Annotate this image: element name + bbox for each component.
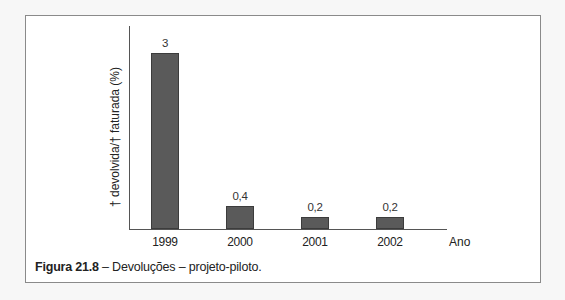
bar-2002 [376,217,404,229]
y-axis [129,26,130,230]
page: † devolvida/† faturada (%) 30,40,20,2 19… [0,0,565,300]
caption-number: Figura 21.8 [35,260,99,274]
bar-value-label-2000: 0,4 [220,190,260,202]
x-tick-2002: 2002 [365,235,415,249]
bar-value-label-1999: 3 [145,37,185,49]
x-axis [129,229,447,230]
x-axis-label: Ano [449,235,470,249]
bar-1999 [151,53,179,229]
bar-2001 [301,217,329,229]
x-tick-2001: 2001 [290,235,340,249]
caption-text: – Devoluções – projeto-piloto. [99,260,262,274]
x-tick-1999: 1999 [140,235,190,249]
figure-frame: † devolvida/† faturada (%) 30,40,20,2 19… [25,15,541,283]
y-axis-label: † devolvida/† faturada (%) [108,67,122,207]
bar-2000 [226,206,254,229]
figure-caption: Figura 21.8 – Devoluções – projeto-pilot… [35,260,261,274]
x-tick-2000: 2000 [215,235,265,249]
bar-value-label-2001: 0,2 [295,201,335,213]
bar-value-label-2002: 0,2 [370,201,410,213]
